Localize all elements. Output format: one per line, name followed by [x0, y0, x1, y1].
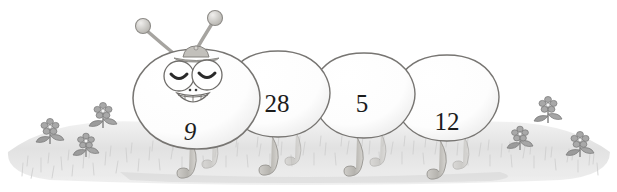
right-eye-icon — [192, 60, 222, 90]
segment-number-4: 12 — [435, 108, 460, 135]
flower — [534, 97, 562, 124]
segment-number-1: 9 — [184, 118, 197, 145]
illustration-canvas: 9 28 5 12 — [0, 0, 617, 192]
antenna-left — [136, 19, 179, 58]
segment-number-3: 5 — [356, 90, 369, 117]
left-eye-icon — [164, 61, 194, 91]
caterpillar-illustration: 9 28 5 12 — [0, 0, 617, 192]
head-segment — [133, 46, 260, 149]
segment-number-2: 28 — [265, 90, 290, 117]
flower — [89, 103, 117, 129]
